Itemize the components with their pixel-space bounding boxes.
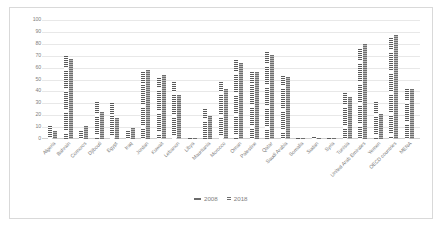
- legend-item-2018[interactable]: 2018: [227, 196, 248, 202]
- bar-2018: [286, 77, 290, 139]
- bar-group: [324, 20, 340, 139]
- bar-2008: [265, 52, 269, 139]
- bar-2008: [281, 76, 285, 139]
- chart-container: 0102030405060708090100 AlgeriaBahrainCom…: [9, 7, 433, 219]
- bar-2008: [157, 78, 161, 139]
- bar-group: [200, 20, 216, 139]
- y-tick-label: 30: [35, 101, 41, 106]
- bar-groups: [42, 20, 420, 139]
- bar-group: [169, 20, 185, 139]
- y-tick-label: 80: [35, 41, 41, 46]
- bar-2008: [203, 109, 207, 139]
- x-tick-label: Jordan: [135, 141, 149, 155]
- y-tick-label: 50: [35, 77, 41, 82]
- x-tick-label: Egypt: [106, 141, 119, 154]
- bar-2008: [389, 38, 393, 139]
- bar-group: [371, 20, 387, 139]
- legend-swatch-dots-icon: [227, 197, 232, 202]
- bar-2008: [296, 138, 300, 139]
- bar-2008: [234, 60, 238, 139]
- bar-2018: [84, 126, 88, 139]
- bar-group: [355, 20, 371, 139]
- bar-group: [107, 20, 123, 139]
- x-tick-label: MENA: [399, 141, 413, 155]
- bar-group: [293, 20, 309, 139]
- legend-label: 2008: [204, 196, 218, 202]
- y-tick-label: 40: [35, 89, 41, 94]
- bar-group: [76, 20, 92, 139]
- bar-2018: [69, 59, 73, 139]
- bar-group: [340, 20, 356, 139]
- bar-2018: [162, 75, 166, 139]
- x-tick-label: Djibouti: [88, 141, 103, 156]
- bar-group: [154, 20, 170, 139]
- bar-2018: [255, 72, 259, 139]
- bar-2018: [394, 35, 398, 139]
- bar-2018: [100, 112, 104, 139]
- bar-2018: [239, 63, 243, 139]
- bar-group: [262, 20, 278, 139]
- bar-2018: [53, 131, 57, 139]
- y-tick-label: 70: [35, 53, 41, 58]
- y-axis: 0102030405060708090100: [19, 20, 41, 139]
- bar-2008: [327, 138, 331, 139]
- x-tick-label: Lebanon: [163, 141, 180, 158]
- bar-group: [61, 20, 77, 139]
- bar-group: [247, 20, 263, 139]
- x-tick-label: Somalia: [288, 141, 304, 157]
- x-tick-label: Sudan: [306, 141, 320, 155]
- y-tick-label: 100: [33, 17, 41, 22]
- bar-group: [138, 20, 154, 139]
- bar-2008: [126, 131, 130, 139]
- bar-2008: [172, 82, 176, 139]
- bar-group: [402, 20, 418, 139]
- y-tick-label: 10: [35, 124, 41, 129]
- bar-2018: [131, 128, 135, 139]
- bar-2008: [405, 89, 409, 139]
- legend-item-2008[interactable]: 2008: [194, 196, 217, 202]
- bar-group: [231, 20, 247, 139]
- bar-2018: [146, 70, 150, 139]
- bar-2008: [48, 126, 52, 139]
- bar-2018: [332, 138, 336, 139]
- bar-2018: [363, 44, 367, 139]
- x-tick-label: Comoros: [69, 141, 87, 159]
- bar-group: [278, 20, 294, 139]
- x-tick-label: Algeria: [42, 141, 57, 156]
- y-tick-label: 20: [35, 113, 41, 118]
- bar-group: [92, 20, 108, 139]
- chart-legend: 20082018: [10, 196, 432, 202]
- bar-2008: [358, 49, 362, 139]
- bar-2018: [317, 138, 321, 139]
- bar-2018: [115, 118, 119, 139]
- bar-2018: [270, 55, 274, 139]
- bar-2018: [301, 138, 305, 139]
- x-axis: AlgeriaBahrainComorosDjiboutiEgyptIraqJo…: [42, 141, 420, 195]
- bar-group: [185, 20, 201, 139]
- x-tick-label: Iraq: [124, 141, 134, 151]
- bar-2008: [219, 82, 223, 139]
- legend-swatch-dash-icon: [194, 198, 201, 199]
- plot-area: [42, 20, 420, 139]
- bar-2018: [177, 95, 181, 139]
- bar-2018: [193, 138, 197, 139]
- bar-2008: [250, 72, 254, 139]
- bar-2018: [379, 114, 383, 139]
- bar-group: [123, 20, 139, 139]
- bar-2008: [79, 131, 83, 139]
- bar-2008: [95, 102, 99, 139]
- bar-2008: [343, 93, 347, 139]
- bar-2018: [348, 97, 352, 139]
- bar-2008: [110, 103, 114, 139]
- y-tick-label: 60: [35, 65, 41, 70]
- y-tick-label: 90: [35, 29, 41, 34]
- bar-2008: [188, 138, 192, 139]
- bar-group: [216, 20, 232, 139]
- bar-2018: [410, 89, 414, 139]
- bar-2018: [208, 116, 212, 139]
- bar-2008: [312, 137, 316, 139]
- bar-group: [309, 20, 325, 139]
- bar-group: [386, 20, 402, 139]
- legend-label: 2018: [234, 196, 248, 202]
- bar-group: [45, 20, 61, 139]
